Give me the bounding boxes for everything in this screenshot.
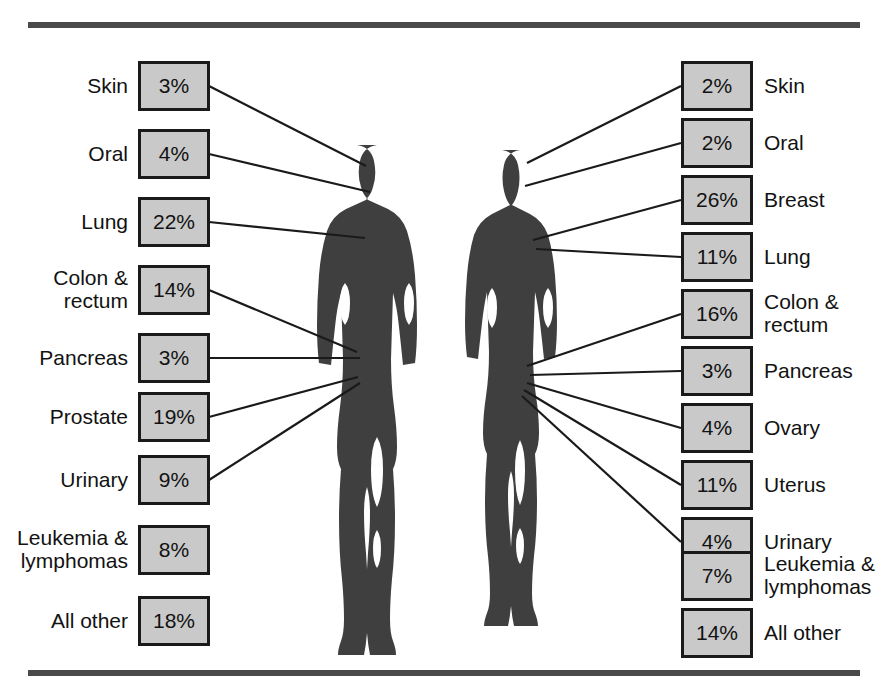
row-female-all-other: 14% All other: [681, 608, 881, 658]
pct-box-female-ovary: 4%: [681, 403, 753, 453]
row-female-leukemia-lymphomas: 7% Leukemia & lymphomas: [681, 551, 881, 601]
pct-box-male-prostate: 19%: [138, 392, 210, 442]
site-label-male-lung: Lung: [81, 211, 138, 234]
site-label-male-prostate: Prostate: [50, 406, 138, 429]
site-label-female-oral: Oral: [753, 132, 804, 155]
pct-box-male-lung: 22%: [138, 197, 210, 247]
row-male-leukemia-lymphomas: Leukemia & lymphomas 8%: [28, 525, 210, 575]
row-male-oral: Oral 4%: [28, 129, 210, 179]
pct-box-male-urinary: 9%: [138, 455, 210, 505]
pct-box-female-skin: 2%: [681, 61, 753, 111]
site-label-female-skin: Skin: [753, 75, 805, 98]
row-male-skin: Skin 3%: [28, 61, 210, 111]
pct-box-male-oral: 4%: [138, 129, 210, 179]
site-label-male-colon-rectum: Colon & rectum: [53, 267, 138, 312]
site-label-female-urinary: Urinary: [753, 531, 832, 554]
pct-box-female-leukemia-lymphomas: 7%: [681, 551, 753, 601]
pct-box-female-lung: 11%: [681, 232, 753, 282]
row-male-lung: Lung 22%: [28, 197, 210, 247]
cancer-incidence-infographic: Skin 3% Oral 4% Lung 22% Colon & rectum …: [0, 0, 886, 688]
site-label-female-leukemia-lymphomas: Leukemia & lymphomas: [753, 553, 875, 598]
row-female-pancreas: 3% Pancreas: [681, 346, 881, 396]
site-label-female-breast: Breast: [753, 189, 825, 212]
row-female-uterus: 11% Uterus: [681, 460, 881, 510]
row-male-all-other: All other 18%: [28, 596, 210, 646]
site-label-female-uterus: Uterus: [753, 474, 826, 497]
female-silhouette: [465, 150, 557, 626]
site-label-male-all-other: All other: [51, 610, 138, 633]
site-label-male-oral: Oral: [88, 143, 138, 166]
row-male-colon-rectum: Colon & rectum 14%: [28, 265, 210, 315]
row-female-oral: 2% Oral: [681, 118, 881, 168]
row-female-breast: 26% Breast: [681, 175, 881, 225]
pct-box-female-uterus: 11%: [681, 460, 753, 510]
pct-box-female-colon-rectum: 16%: [681, 289, 753, 339]
site-label-male-pancreas: Pancreas: [39, 347, 138, 370]
site-label-female-lung: Lung: [753, 246, 811, 269]
pct-box-female-all-other: 14%: [681, 608, 753, 658]
pct-box-male-colon-rectum: 14%: [138, 265, 210, 315]
pct-box-female-breast: 26%: [681, 175, 753, 225]
site-label-female-ovary: Ovary: [753, 417, 820, 440]
pct-box-female-oral: 2%: [681, 118, 753, 168]
pct-box-male-leukemia-lymphomas: 8%: [138, 525, 210, 575]
pct-box-male-all-other: 18%: [138, 596, 210, 646]
row-female-skin: 2% Skin: [681, 61, 881, 111]
pct-box-male-pancreas: 3%: [138, 333, 210, 383]
row-male-prostate: Prostate 19%: [28, 392, 210, 442]
row-female-ovary: 4% Ovary: [681, 403, 881, 453]
pct-box-male-skin: 3%: [138, 61, 210, 111]
site-label-female-colon-rectum: Colon & rectum: [753, 291, 839, 336]
pct-box-female-pancreas: 3%: [681, 346, 753, 396]
site-label-male-urinary: Urinary: [60, 469, 138, 492]
male-silhouette: [317, 145, 417, 655]
site-label-male-skin: Skin: [87, 75, 138, 98]
row-male-urinary: Urinary 9%: [28, 455, 210, 505]
row-female-lung: 11% Lung: [681, 232, 881, 282]
site-label-female-all-other: All other: [753, 622, 841, 645]
row-male-pancreas: Pancreas 3%: [28, 333, 210, 383]
site-label-male-leukemia-lymphomas: Leukemia & lymphomas: [17, 527, 138, 572]
site-label-female-pancreas: Pancreas: [753, 360, 853, 383]
row-female-colon-rectum: 16% Colon & rectum: [681, 289, 881, 339]
